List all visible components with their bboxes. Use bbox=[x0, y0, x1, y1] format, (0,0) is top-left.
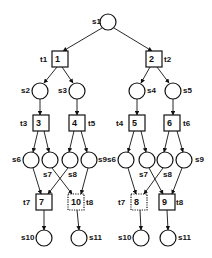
place-label: s3 bbox=[58, 86, 67, 95]
place-circle bbox=[23, 152, 39, 168]
place-circle bbox=[165, 83, 181, 99]
transition-label: t8 bbox=[86, 198, 94, 207]
place-s1: s1 bbox=[92, 14, 116, 30]
transition-t2: 2t2 bbox=[146, 51, 172, 67]
place-label: s11 bbox=[89, 233, 102, 242]
place-label: s7 bbox=[139, 170, 148, 179]
arc bbox=[149, 168, 163, 194]
arc bbox=[44, 131, 49, 152]
place-circle bbox=[118, 152, 134, 168]
arc bbox=[128, 131, 134, 152]
transition-label: t4 bbox=[116, 119, 124, 128]
arc bbox=[81, 131, 87, 152]
arc bbox=[69, 131, 74, 152]
transition-number: 7 bbox=[39, 197, 44, 207]
place-label: s10 bbox=[118, 233, 132, 242]
place-circle bbox=[36, 230, 52, 246]
transition-label: t2 bbox=[164, 55, 172, 64]
arc bbox=[157, 67, 169, 83]
arc bbox=[172, 168, 182, 194]
place-s11R: s11 bbox=[160, 230, 191, 246]
place-label: s10 bbox=[21, 233, 35, 242]
place-label: s2 bbox=[21, 86, 30, 95]
place-circle bbox=[139, 152, 155, 168]
place-label: s11 bbox=[178, 233, 191, 242]
arc bbox=[164, 131, 169, 152]
place-s10L: s10 bbox=[21, 230, 52, 246]
transition-number: 1 bbox=[55, 54, 60, 64]
place-circle bbox=[81, 152, 97, 168]
arc bbox=[33, 131, 38, 152]
transition-t8R: 9t8 bbox=[159, 194, 184, 210]
arc bbox=[114, 28, 152, 51]
transition-t3: 3t3 bbox=[20, 115, 49, 131]
transition-number: 3 bbox=[36, 118, 41, 128]
place-label: s6 bbox=[107, 155, 116, 164]
transition-label: t7 bbox=[118, 198, 126, 207]
transition-number: 2 bbox=[149, 54, 154, 64]
place-circle bbox=[100, 14, 116, 30]
place-label: s5 bbox=[183, 86, 192, 95]
arc bbox=[167, 210, 168, 230]
petri-net-diagram: s1s2s3s4s5s6s7s8s9s6s7s8s9s10s11s10s11 1… bbox=[0, 0, 212, 258]
transition-t6: 6t6 bbox=[164, 115, 191, 131]
place-label: s7 bbox=[43, 170, 52, 179]
transition-label: t8 bbox=[176, 198, 184, 207]
transition-t8L: 10t8 bbox=[68, 194, 94, 210]
place-circle bbox=[71, 230, 87, 246]
place-s8L: s8 bbox=[62, 152, 78, 179]
transition-t4: 5t4 bbox=[116, 115, 145, 131]
arc bbox=[62, 67, 73, 83]
arc bbox=[33, 168, 41, 194]
place-circle bbox=[157, 152, 173, 168]
place-s6L: s6 bbox=[12, 152, 39, 168]
place-s9L: s9 bbox=[81, 152, 107, 168]
transition-label: t1 bbox=[40, 55, 48, 64]
arc bbox=[63, 28, 102, 51]
transition-number: 9 bbox=[162, 197, 167, 207]
place-label: s8 bbox=[68, 170, 77, 179]
place-s5: s5 bbox=[165, 83, 192, 99]
place-circle bbox=[62, 152, 78, 168]
arc bbox=[140, 210, 141, 230]
transition-number: 5 bbox=[132, 118, 137, 128]
transition-t7R: 8t7 bbox=[118, 194, 147, 210]
place-label: s4 bbox=[147, 86, 156, 95]
place-label: s8 bbox=[163, 170, 172, 179]
arc bbox=[77, 210, 79, 230]
place-label: s9 bbox=[195, 155, 204, 164]
place-s11L: s11 bbox=[71, 230, 102, 246]
place-label: s6 bbox=[12, 155, 21, 164]
place-circle bbox=[69, 83, 85, 99]
transitions: 1t12t23t34t55t46t67t710t88t79t8 bbox=[20, 51, 191, 210]
transition-label: t5 bbox=[88, 119, 96, 128]
transition-number: 6 bbox=[167, 118, 172, 128]
arc bbox=[141, 131, 146, 152]
arc bbox=[128, 168, 136, 194]
place-s10R: s10 bbox=[118, 230, 149, 246]
transition-number: 8 bbox=[134, 197, 139, 207]
place-s7L: s7 bbox=[42, 152, 58, 179]
place-circle bbox=[32, 83, 48, 99]
place-s8R: s8 bbox=[157, 152, 173, 179]
place-circle bbox=[133, 230, 149, 246]
place-label: s1 bbox=[92, 17, 101, 26]
transition-t7L: 7t7 bbox=[23, 194, 52, 210]
place-circle bbox=[42, 152, 58, 168]
place-s4: s4 bbox=[129, 83, 156, 99]
arc bbox=[141, 67, 150, 83]
transition-t1: 1t1 bbox=[40, 51, 68, 67]
arc bbox=[177, 131, 183, 152]
transition-number: 10 bbox=[71, 197, 81, 207]
arc bbox=[44, 67, 57, 83]
transition-label: t7 bbox=[23, 198, 31, 207]
transition-label: t6 bbox=[183, 119, 191, 128]
place-circle bbox=[160, 230, 176, 246]
transition-label: t3 bbox=[20, 119, 28, 128]
place-s6R: s6 bbox=[107, 152, 134, 168]
place-s2: s2 bbox=[21, 83, 48, 99]
place-circle bbox=[129, 83, 145, 99]
arc bbox=[81, 168, 88, 194]
place-circle bbox=[176, 152, 192, 168]
transition-number: 4 bbox=[72, 118, 77, 128]
